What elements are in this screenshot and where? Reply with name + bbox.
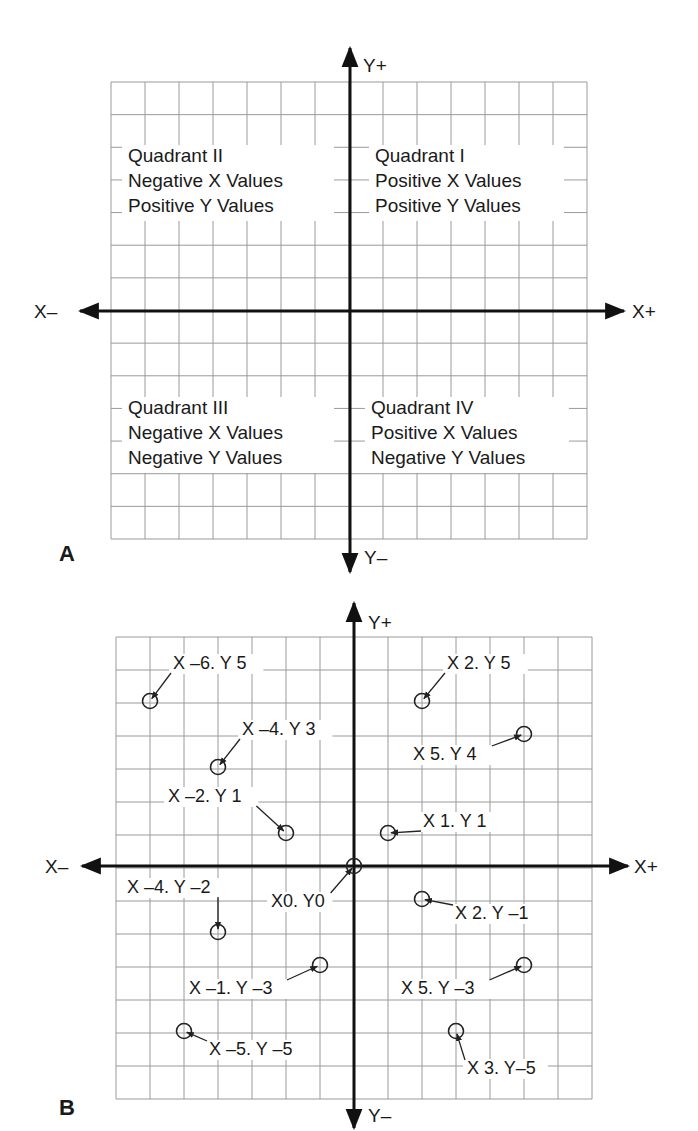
quadrant-text-line: Quadrant II <box>128 145 223 166</box>
coordinate-figure: Quadrant IINegative X ValuesPositive Y V… <box>0 0 698 1131</box>
panel-b-y-neg-label: Y– <box>368 1105 392 1126</box>
panel-a-quadrant-labels: Quadrant IINegative X ValuesPositive Y V… <box>122 145 569 473</box>
quadrant-text-line: Negative X Values <box>128 422 283 443</box>
point-label: X 5. Y 4 <box>413 744 476 764</box>
point-label: X –1. Y –3 <box>189 978 272 998</box>
data-point: X 3. Y–5 <box>449 1024 548 1080</box>
point-label: X 5. Y –3 <box>401 978 474 998</box>
figure-canvas: Quadrant IINegative X ValuesPositive Y V… <box>0 0 698 1131</box>
data-point: X –6. Y 5 <box>143 653 264 709</box>
point-label: X0. Y0 <box>271 891 325 911</box>
leader-arrow <box>331 868 352 893</box>
point-label: X 1. Y 1 <box>423 811 486 831</box>
quadrant-i-label: Quadrant IPositive X ValuesPositive Y Va… <box>369 145 564 221</box>
point-label: X –2. Y 1 <box>168 786 241 806</box>
quadrant-text-line: Positive Y Values <box>375 195 521 216</box>
data-point: X –5. Y –5 <box>177 1024 310 1061</box>
leader-arrow <box>424 673 445 699</box>
point-label: X 3. Y–5 <box>467 1058 536 1078</box>
point-label: X –4. Y –2 <box>127 877 210 897</box>
quadrant-text-line: Quadrant III <box>128 397 228 418</box>
data-point: X 2. Y 5 <box>415 653 528 709</box>
quadrant-text-line: Negative Y Values <box>371 447 525 468</box>
quadrant-text-line: Positive X Values <box>371 422 517 443</box>
panel-a-x-neg-label: X– <box>34 301 58 322</box>
point-label: X –5. Y –5 <box>209 1039 292 1059</box>
panel-a-quadrant-diagram: Quadrant IINegative X ValuesPositive Y V… <box>34 48 656 572</box>
quadrant-text-line: Negative X Values <box>128 170 283 191</box>
quadrant-iv-label: Quadrant IVPositive X ValuesNegative Y V… <box>365 397 569 473</box>
panel-b-letter: B <box>59 1095 75 1120</box>
quadrant-ii-label: Quadrant IINegative X ValuesPositive Y V… <box>122 145 334 221</box>
panel-a-y-neg-label: Y– <box>364 547 388 568</box>
data-point: X 5. Y 4 <box>409 727 532 766</box>
data-point: X –1. Y –3 <box>185 958 328 1000</box>
leader-arrow <box>152 673 171 699</box>
panel-b-y-pos-label: Y+ <box>368 612 392 633</box>
point-label: X 2. Y 5 <box>447 653 510 673</box>
leader-arrow <box>220 739 240 765</box>
quadrant-text-line: Positive Y Values <box>128 195 274 216</box>
data-point: X 5. Y –3 <box>397 958 532 1000</box>
panel-a-y-pos-label: Y+ <box>363 55 387 76</box>
leader-arrow <box>489 966 521 980</box>
panel-b-x-neg-label: X– <box>45 856 69 877</box>
data-point: X 2. Y –1 <box>415 892 546 925</box>
point-label: X –4. Y 3 <box>242 719 315 739</box>
point-label: X –6. Y 5 <box>173 653 246 673</box>
quadrant-text-line: Negative Y Values <box>128 447 282 468</box>
panel-b-plotted-points: X –6. Y 5X 2. Y 5X –4. Y 3X 5. Y 4X –2. … <box>45 603 658 1128</box>
panel-a-x-pos-label: X+ <box>632 301 656 322</box>
quadrant-iii-label: Quadrant IIINegative X ValuesNegative Y … <box>122 397 334 473</box>
quadrant-text-line: Positive X Values <box>375 170 521 191</box>
quadrant-text-line: Quadrant IV <box>371 397 474 418</box>
leader-arrow <box>256 806 283 831</box>
data-point: X –4. Y –2 <box>123 877 227 940</box>
leader-arrow <box>457 1034 465 1060</box>
panel-b-x-pos-label: X+ <box>634 856 658 877</box>
leader-arrow <box>287 966 317 980</box>
data-point: X 1. Y 1 <box>381 811 504 841</box>
panel-a-letter: A <box>59 541 75 566</box>
data-point: X –2. Y 1 <box>164 786 294 841</box>
quadrant-text-line: Quadrant I <box>375 145 465 166</box>
leader-arrow <box>492 735 521 746</box>
point-label: X 2. Y –1 <box>455 903 528 923</box>
data-point: X –4. Y 3 <box>211 719 333 775</box>
